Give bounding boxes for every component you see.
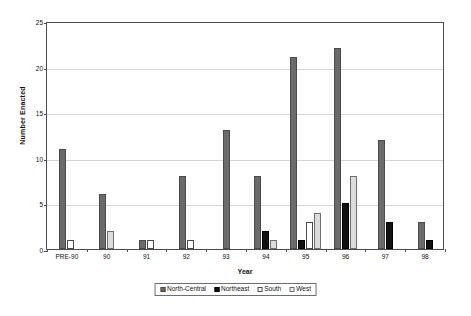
x-tick-mark [206,249,207,252]
bar-south-pre-90 [67,240,74,249]
x-tick-mark [246,249,247,252]
x-tick-label: 94 [262,254,269,261]
bar-north-central-93 [223,130,230,249]
plot-area: 0510152025 PRE-90909192939495969798 [46,22,444,250]
bar-south-92 [187,240,194,249]
bar-west-96 [350,176,357,249]
legend-label: Northeast [221,286,249,293]
bar-northeast-98 [426,240,433,249]
bar-north-central-91 [139,240,146,249]
legend-item-west[interactable]: West [289,286,311,293]
bar-northeast-95 [298,240,305,249]
y-tick-label: 20 [36,65,43,72]
bar-west-90 [107,231,114,249]
bar-group [166,23,206,249]
bar-group [87,23,127,249]
legend-label: South [264,286,281,293]
bar-north-central-90 [99,194,106,249]
x-axis-title: Year [46,268,444,275]
bar-north-central-94 [254,176,261,249]
bar-west-94 [270,240,277,249]
bar-group [206,23,246,249]
bar-north-central-92 [179,176,186,249]
bar-group [246,23,286,249]
x-tick-label: 97 [382,254,389,261]
y-tick-label: 0 [39,248,43,255]
bar-northeast-94 [262,231,269,249]
x-tick-mark [87,249,88,252]
bar-northeast-96 [342,203,349,249]
x-tick-mark [47,249,48,252]
y-axis-title: Number Enacted [19,56,26,176]
legend-item-northeast[interactable]: Northeast [214,286,249,293]
legend-item-south[interactable]: South [257,286,281,293]
bar-south-91 [147,240,154,249]
x-tick-label: 92 [183,254,190,261]
x-tick-label: 93 [222,254,229,261]
bar-south-95 [306,222,313,249]
x-tick-label: 96 [342,254,349,261]
x-tick-label: 98 [421,254,428,261]
x-tick-label: 90 [103,254,110,261]
bar-north-central-97 [378,140,385,249]
x-tick-mark [365,249,366,252]
x-tick-mark [166,249,167,252]
bar-north-central-pre-90 [59,149,66,249]
legend-swatch-icon [214,287,219,292]
bar-chart: Number Enacted 0510152025 PRE-9090919293… [0,0,471,316]
x-tick-mark [405,249,406,252]
bar-group [326,23,366,249]
bar-northeast-97 [386,222,393,249]
chart-legend: North-CentralNortheastSouthWest [154,283,317,296]
legend-swatch-icon [257,287,262,292]
y-tick-label: 15 [36,111,43,118]
bar-group [365,23,405,249]
bar-north-central-98 [418,222,425,249]
x-tick-mark [127,249,128,252]
legend-label: North-Central [167,286,206,293]
bar-group [286,23,326,249]
legend-label: West [296,286,311,293]
legend-swatch-icon [160,287,165,292]
bars-layer [47,23,443,249]
bar-west-95 [314,213,321,249]
legend-item-north-central[interactable]: North-Central [160,286,206,293]
x-tick-mark [286,249,287,252]
bar-group [127,23,167,249]
y-tick-label: 25 [36,20,43,27]
bar-group [405,23,445,249]
bar-group [47,23,87,249]
x-tick-label: 95 [302,254,309,261]
x-tick-mark [326,249,327,252]
legend-swatch-icon [289,287,294,292]
x-tick-mark [445,249,446,252]
x-tick-label: PRE-90 [56,254,79,261]
bar-north-central-95 [290,57,297,249]
y-tick-label: 10 [36,157,43,164]
bar-north-central-96 [334,48,341,249]
x-tick-label: 91 [143,254,150,261]
y-tick-label: 5 [39,202,43,209]
